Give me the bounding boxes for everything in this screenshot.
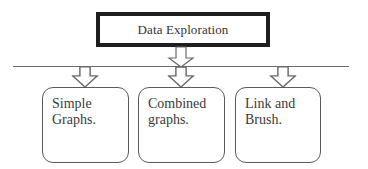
child-node-combined-graphs: Combined graphs. (138, 87, 225, 163)
root-node-data-exploration: Data Exploration (96, 12, 270, 47)
child-node-label: Simple Graphs. (52, 96, 128, 128)
child-node-label: Combined graphs. (148, 96, 224, 128)
down-arrow-icon-child-1 (73, 67, 97, 87)
child-node-label: Link and Brush. (245, 96, 320, 128)
root-node-label: Data Exploration (138, 22, 229, 38)
down-arrow-icon-child-3 (271, 67, 295, 87)
child-node-link-and-brush: Link and Brush. (235, 87, 321, 163)
bus-line (13, 66, 349, 67)
down-arrow-icon-root (169, 47, 193, 67)
down-arrow-icon-child-2 (169, 67, 193, 87)
child-node-simple-graphs: Simple Graphs. (42, 87, 129, 163)
